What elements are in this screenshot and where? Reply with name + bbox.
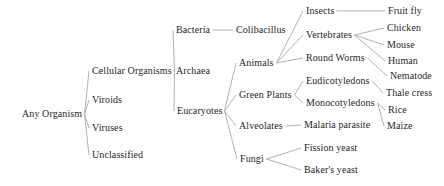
node-colibacillus: Colibacillus <box>236 24 286 36</box>
node-maize: Maize <box>387 120 413 132</box>
node-bacteria: Bacteria <box>176 24 210 36</box>
node-green-plants: Green Plants <box>239 89 292 101</box>
node-round-worms: Round Worms <box>306 52 365 64</box>
node-fission-yeast: Fission yeast <box>304 142 357 154</box>
edge-vertebrates-mouse <box>355 35 385 45</box>
node-eudicotyledons: Eudicotyledons <box>306 75 370 87</box>
node-mouse: Mouse <box>387 39 415 51</box>
edge-alveolates-malaria-parasite <box>286 125 302 126</box>
node-any-organism: Any Organism <box>22 108 82 120</box>
taxonomy-tree-diagram: Any OrganismCellular OrganismsBacteriaCo… <box>0 0 444 186</box>
node-monocotyledons: Monocotyledons <box>306 97 375 109</box>
node-malaria-parasite: Malaria parasite <box>304 119 370 131</box>
node-archaea: Archaea <box>176 65 210 77</box>
edge-green-plants-eudicotyledons <box>295 81 304 95</box>
node-thale-cress: Thale cress <box>386 87 432 99</box>
edge-vertebrates-chicken <box>355 28 385 35</box>
node-fruit-fly: Fruit fly <box>388 5 422 17</box>
edge-green-plants-monocotyledons <box>295 95 304 103</box>
node-viroids: Viroids <box>92 94 122 106</box>
edge-cellular-organisms-bacteria <box>173 30 175 71</box>
tree-edges <box>0 0 444 186</box>
edge-animals-insects <box>277 11 304 63</box>
edge-eucaryotes-fungi <box>225 111 238 159</box>
node-cellular-organisms: Cellular Organisms <box>92 65 172 77</box>
node-rice: Rice <box>388 104 407 116</box>
node-chicken: Chicken <box>387 22 421 34</box>
edge-fungi-fission-yeast <box>267 148 302 159</box>
node-human: Human <box>388 55 418 67</box>
node-baker-s-yeast: Baker's yeast <box>304 164 358 176</box>
node-insects: Insects <box>306 5 334 17</box>
node-fungi: Fungi <box>240 153 264 165</box>
edge-fungi-baker-s-yeast <box>267 159 302 170</box>
node-nematode: Nematode <box>390 70 432 82</box>
edge-cellular-organisms-eucaryotes <box>174 71 175 111</box>
node-animals: Animals <box>239 57 274 69</box>
node-eucaryotes: Eucaryotes <box>177 105 222 117</box>
node-vertebrates: Vertebrates <box>306 29 352 41</box>
node-alveolates: Alveolates <box>239 120 283 132</box>
edge-eudicotyledons-thale-cress <box>373 81 384 93</box>
node-viruses: Viruses <box>92 122 123 134</box>
node-unclassified: Unclassified <box>92 149 143 161</box>
